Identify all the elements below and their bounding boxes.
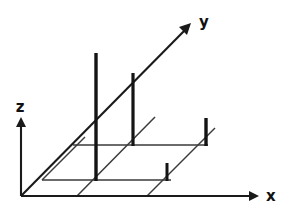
x-axis-label: x <box>266 187 276 205</box>
stem-bars-group <box>96 53 206 181</box>
y-axis-label: y <box>199 13 209 31</box>
z-axis-arrowhead <box>16 117 26 127</box>
grid-diag-1 <box>42 137 85 180</box>
axes-diagram: y x z <box>0 0 283 213</box>
grid-group <box>42 117 215 196</box>
x-axis-arrowhead <box>249 191 259 201</box>
z-axis-label: z <box>16 98 25 116</box>
figure-canvas: y x z <box>0 0 283 213</box>
axis-group <box>16 23 259 201</box>
axis-labels-group: y x z <box>16 13 276 205</box>
y-axis-line <box>21 29 186 196</box>
